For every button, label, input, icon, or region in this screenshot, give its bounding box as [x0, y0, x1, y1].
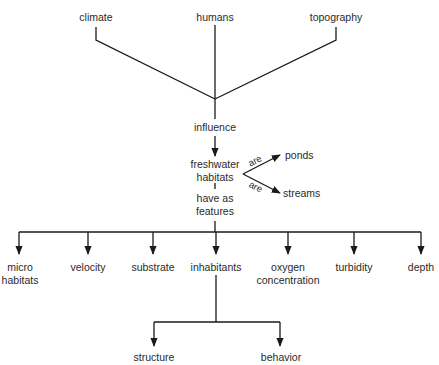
node-inhabitants: inhabitants	[191, 261, 242, 274]
edge-topography-to-junction	[215, 27, 336, 99]
node-freshwater-habitats: freshwater habitats	[190, 158, 239, 184]
node-freshwater-habitats-line1: freshwater	[190, 158, 239, 171]
node-micro-habitats-line2: habitats	[2, 274, 39, 287]
node-ponds: ponds	[285, 149, 314, 162]
node-substrate: substrate	[131, 261, 174, 274]
edge-climate-to-junction	[96, 27, 215, 99]
node-behavior: behavior	[261, 351, 301, 364]
node-micro-habitats: micro habitats	[2, 261, 39, 287]
node-oxygen-concentration-line1: oxygen	[256, 261, 319, 274]
link-have-as-features-line2: features	[196, 205, 234, 218]
node-depth: depth	[408, 261, 434, 274]
node-structure: structure	[134, 351, 175, 364]
freshwater-habitats-concept-map: climate humans topography influence fres…	[0, 0, 439, 365]
node-humans: humans	[196, 11, 233, 24]
node-streams: streams	[283, 187, 320, 200]
node-freshwater-habitats-line2: habitats	[190, 171, 239, 184]
node-micro-habitats-line1: micro	[2, 261, 39, 274]
node-turbidity: turbidity	[336, 261, 373, 274]
link-have-as-features: have as features	[196, 192, 234, 218]
link-influence: influence	[194, 121, 236, 134]
node-velocity: velocity	[70, 261, 105, 274]
node-oxygen-concentration-line2: concentration	[256, 274, 319, 287]
node-climate: climate	[79, 11, 112, 24]
node-topography: topography	[310, 11, 363, 24]
link-have-as-features-line1: have as	[196, 192, 234, 205]
node-oxygen-concentration: oxygen concentration	[256, 261, 319, 287]
